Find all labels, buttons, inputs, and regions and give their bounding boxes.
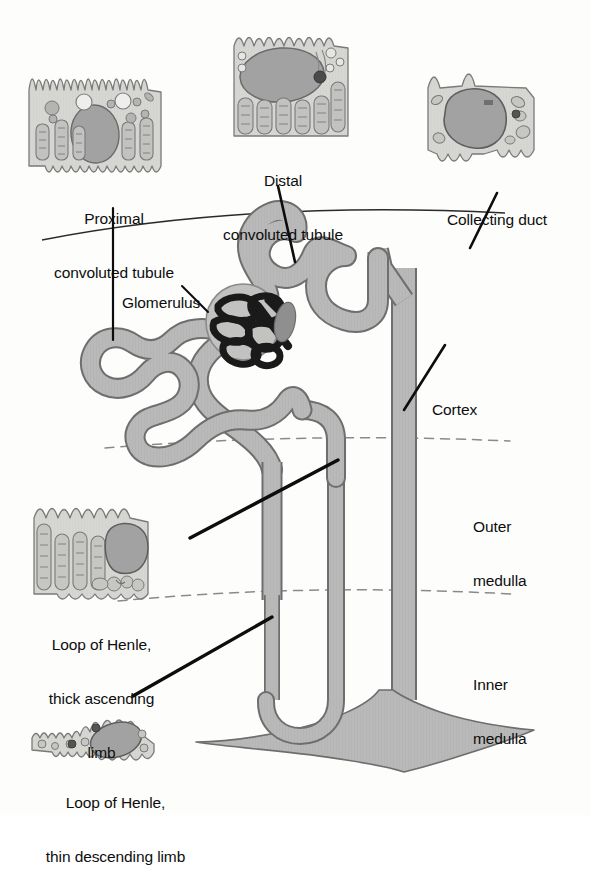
label-glomerulus: Glomerulus [122, 258, 252, 348]
label-collecting-duct: Collecting duct [432, 175, 562, 265]
label-dct-line1: Distal [213, 172, 353, 190]
label-tal-line1: Loop of Henle, [14, 636, 189, 654]
descending-limb-upper-bend [302, 410, 336, 478]
label-inner-medulla-line2: medulla [473, 730, 583, 748]
label-inner-medulla: Inner medulla [473, 640, 583, 784]
label-cd-line1: Collecting duct [432, 211, 562, 229]
collecting-duct-cell [428, 74, 534, 161]
label-inner-medulla-line1: Inner [473, 676, 583, 694]
label-pct-line1: Proximal [34, 210, 194, 228]
label-tal-line2: thick ascending [14, 690, 189, 708]
label-outer-medulla-line1: Outer [473, 518, 583, 536]
label-outer-medulla: Outer medulla [473, 482, 583, 626]
label-tdl-line1: Loop of Henle, [8, 794, 223, 812]
label-glomerulus-line1: Glomerulus [122, 294, 252, 312]
label-cortex: Cortex [432, 365, 532, 455]
label-cortex-line1: Cortex [432, 401, 532, 419]
thick-ascending-limb-cell [34, 509, 148, 600]
label-dct-line2: convoluted tubule [213, 226, 353, 244]
label-tdl-line2: thin descending limb [8, 848, 223, 866]
distal-tubule-cell [234, 38, 348, 137]
proximal-tubule-cell [29, 79, 161, 172]
label-loop-thin-descending-limb: Loop of Henle, thin descending limb [8, 758, 223, 869]
label-outer-medulla-line2: medulla [473, 572, 583, 590]
